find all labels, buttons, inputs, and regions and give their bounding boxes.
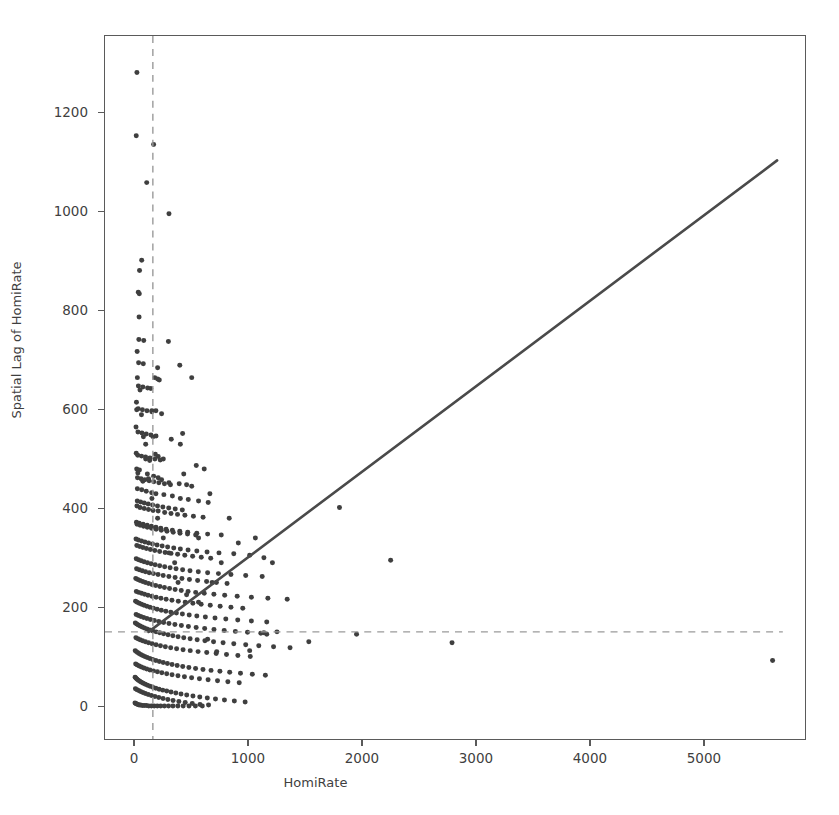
data-point (148, 547, 153, 552)
data-point (135, 349, 140, 354)
data-point (198, 702, 203, 707)
data-point (285, 597, 290, 602)
data-point (142, 506, 147, 511)
data-point (260, 574, 265, 579)
data-point (177, 481, 182, 486)
data-point (155, 365, 160, 370)
data-point (186, 497, 191, 502)
data-point (159, 670, 164, 675)
data-point (169, 690, 174, 695)
data-point (164, 529, 169, 534)
data-point (171, 545, 176, 550)
data-point (188, 568, 193, 573)
data-point (145, 471, 150, 476)
data-point (181, 471, 186, 476)
data-point (163, 609, 168, 614)
data-point (180, 567, 185, 572)
data-point (135, 470, 140, 475)
scatter-canvas (105, 36, 805, 739)
y-tick-mark (98, 310, 104, 311)
data-point (149, 496, 154, 501)
data-point (217, 669, 222, 674)
data-point (206, 702, 211, 707)
data-point (172, 560, 177, 565)
data-point (206, 677, 211, 682)
data-point (180, 664, 185, 669)
y-tick-mark (98, 706, 104, 707)
x-tick-label: 1000 (208, 752, 288, 766)
data-point (190, 694, 195, 699)
data-point (173, 691, 178, 696)
data-point (162, 481, 167, 486)
data-point (159, 528, 164, 533)
data-point (155, 503, 160, 508)
data-point (231, 641, 236, 646)
data-point (196, 569, 201, 574)
data-point (196, 536, 201, 541)
data-point (164, 671, 169, 676)
data-point (166, 505, 171, 510)
data-point (211, 639, 216, 644)
data-point (151, 479, 156, 484)
data-point (134, 400, 139, 405)
data-point (173, 587, 178, 592)
data-point (204, 650, 209, 655)
data-point (194, 548, 199, 553)
data-point (235, 618, 240, 623)
data-point (190, 701, 195, 706)
data-point (236, 541, 241, 546)
data-point (164, 597, 169, 602)
data-point (189, 675, 194, 680)
data-point (161, 573, 166, 578)
data-point (160, 504, 165, 509)
data-point (134, 425, 139, 430)
y-tick-label: 600 (62, 403, 88, 417)
y-tick-mark (98, 211, 104, 212)
data-point (186, 665, 191, 670)
data-point (187, 577, 192, 582)
data-point (202, 466, 207, 471)
data-point (191, 514, 196, 519)
data-point (163, 644, 168, 649)
data-point (247, 648, 252, 653)
data-point (201, 515, 206, 520)
data-point (237, 680, 242, 685)
data-point (225, 581, 230, 586)
data-point (184, 482, 189, 487)
y-tick-label: 0 (79, 700, 88, 714)
y-axis-label: Spatial Lag of HomiRate (9, 262, 24, 419)
data-point (204, 579, 209, 584)
data-point (178, 442, 183, 447)
data-point (171, 698, 176, 703)
data-point (174, 566, 179, 571)
data-point (174, 646, 179, 651)
data-point (232, 698, 237, 703)
data-point (270, 560, 275, 565)
data-point (249, 595, 254, 600)
data-point (207, 491, 212, 496)
data-point (197, 695, 202, 700)
data-point (189, 484, 194, 489)
data-point (166, 632, 171, 637)
data-point (144, 180, 149, 185)
data-point (197, 676, 202, 681)
data-point (156, 480, 161, 485)
data-point (168, 482, 173, 487)
data-point (212, 627, 217, 632)
data-point (195, 578, 200, 583)
data-point (228, 605, 233, 610)
data-point (167, 550, 172, 555)
data-point (161, 660, 166, 665)
x-tick-label: 2000 (322, 752, 402, 766)
x-tick-label: 5000 (664, 752, 744, 766)
data-point (145, 525, 150, 530)
data-point (213, 616, 218, 621)
data-point (178, 496, 183, 501)
data-point (165, 661, 170, 666)
data-point (153, 562, 158, 567)
data-point (135, 486, 140, 491)
data-point (136, 406, 141, 411)
data-point (158, 643, 163, 648)
data-point (157, 563, 162, 568)
data-point (250, 672, 255, 677)
